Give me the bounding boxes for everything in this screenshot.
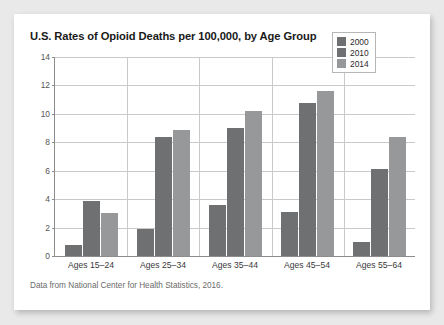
bar-2010-Ages-45–54 bbox=[299, 103, 316, 257]
legend-item-2010: 2010 bbox=[337, 47, 369, 58]
bar-2014-Ages-45–54 bbox=[317, 91, 334, 256]
x-axis-tick-labels: Ages 15–24Ages 25–34Ages 35–44Ages 45–54… bbox=[55, 260, 415, 270]
y-axis-tick-label: 0 bbox=[45, 251, 50, 261]
bar-2014-Ages-55–64 bbox=[389, 137, 406, 256]
x-axis-tick-label: Ages 25–34 bbox=[127, 260, 199, 270]
legend-swatch-icon bbox=[337, 48, 346, 57]
bars-layer bbox=[55, 57, 415, 256]
y-axis-tick-label: 2 bbox=[45, 223, 50, 233]
bar-2000-Ages-45–54 bbox=[281, 212, 298, 256]
x-axis-tick-label: Ages 35–44 bbox=[199, 260, 271, 270]
source-note: Data from National Center for Health Sta… bbox=[30, 281, 223, 290]
bar-2014-Ages-35–44 bbox=[245, 111, 262, 256]
bar-group bbox=[271, 57, 343, 256]
bar-group bbox=[55, 57, 127, 256]
bar-group bbox=[199, 57, 271, 256]
legend-label: 2010 bbox=[350, 48, 369, 58]
x-axis-tick-label: Ages 15–24 bbox=[55, 260, 127, 270]
bar-2010-Ages-35–44 bbox=[227, 128, 244, 256]
legend-label: 2000 bbox=[350, 37, 369, 47]
bar-2010-Ages-15–24 bbox=[83, 201, 100, 256]
y-axis-tick-label: 12 bbox=[41, 80, 50, 90]
gridline-y-0 bbox=[55, 256, 415, 257]
bar-2014-Ages-25–34 bbox=[173, 130, 190, 257]
legend-swatch-icon bbox=[337, 59, 346, 68]
legend-label: 2014 bbox=[350, 59, 369, 69]
x-axis-tick-label: Ages 45–54 bbox=[271, 260, 343, 270]
legend-item-2014: 2014 bbox=[337, 58, 369, 69]
plot-region: 02468101214 bbox=[54, 57, 415, 257]
chart-legend: 200020102014 bbox=[332, 32, 376, 73]
y-axis-tick-label: 6 bbox=[45, 166, 50, 176]
figure-card: U.S. Rates of Opioid Deaths per 100,000,… bbox=[14, 14, 430, 310]
legend-swatch-icon bbox=[337, 37, 346, 46]
bar-2000-Ages-55–64 bbox=[353, 242, 370, 256]
bar-group bbox=[343, 57, 415, 256]
bar-2000-Ages-25–34 bbox=[137, 229, 154, 256]
y-axis-tick-label: 10 bbox=[41, 109, 50, 119]
bar-2010-Ages-55–64 bbox=[371, 169, 388, 256]
x-axis-tick-label: Ages 55–64 bbox=[343, 260, 415, 270]
y-axis-tick-label: 4 bbox=[45, 194, 50, 204]
legend-item-2000: 2000 bbox=[337, 36, 369, 47]
bar-2000-Ages-35–44 bbox=[209, 205, 226, 256]
bar-group bbox=[127, 57, 199, 256]
chart-title: U.S. Rates of Opioid Deaths per 100,000,… bbox=[30, 30, 316, 42]
y-axis-tick-label: 8 bbox=[45, 137, 50, 147]
y-axis-tick-label: 14 bbox=[41, 52, 50, 62]
bar-2000-Ages-15–24 bbox=[65, 245, 82, 256]
bar-2014-Ages-15–24 bbox=[101, 213, 118, 256]
bar-2010-Ages-25–34 bbox=[155, 137, 172, 256]
y-axis-tick-mark bbox=[52, 256, 55, 257]
